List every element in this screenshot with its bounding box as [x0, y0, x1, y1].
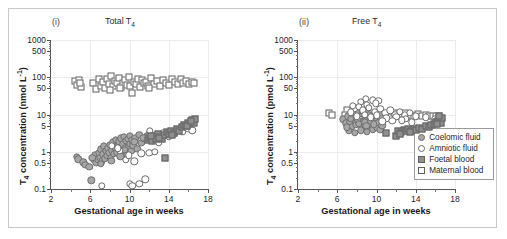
y-axis-minor-tick [49, 120, 52, 121]
y-axis-minor-tick [49, 171, 52, 172]
legend-item-amniotic-fluid[interactable]: Amniotic fluid [418, 143, 489, 154]
legend-item-foetal-blood[interactable]: Foetal blood [418, 154, 489, 165]
y-axis-minor-tick [49, 48, 52, 49]
x-axis-minor-tick [396, 189, 397, 192]
foetal-blood-point [168, 132, 175, 139]
y-axis-tick-label: 0.5 [34, 159, 46, 167]
y-axis-minor-tick [49, 92, 52, 93]
legend-item-coelomic-fluid[interactable]: Coelomic fluid [418, 132, 489, 143]
y-axis-minor-tick [296, 103, 299, 104]
y-axis-minor-tick [296, 81, 299, 82]
x-axis-tick [208, 189, 209, 193]
y-axis-minor-tick [296, 155, 299, 156]
amniotic-fluid-point [422, 114, 429, 121]
figure-root: (i) Total T4 T4 concentration (nmol L-1)… [0, 0, 507, 239]
y-axis-minor-tick [296, 44, 299, 45]
y-axis-tick-label: 1000 [274, 36, 293, 44]
x-axis-minor-tick [71, 189, 72, 192]
x-axis-tick [298, 189, 299, 193]
y-axis-title-i-t: T [18, 179, 28, 185]
x-axis-minor-tick [357, 189, 358, 192]
y-axis-minor-tick [296, 178, 299, 179]
foetal-blood-point [397, 130, 404, 137]
panel-title-ii-sub: 4 [378, 21, 382, 28]
y-axis-minor-tick [296, 42, 299, 43]
foetal-blood-point [148, 133, 155, 140]
maternal-blood-point [116, 85, 123, 92]
x-axis-minor-tick [435, 189, 436, 192]
y-axis-minor-tick [49, 141, 52, 142]
y-axis-minor-tick [49, 129, 52, 130]
legend-item-maternal-blood[interactable]: Maternal blood [418, 165, 489, 176]
maternal-blood-point [106, 86, 113, 93]
panel-index-ii: (ii) [299, 17, 309, 27]
y-axis-minor-tick [49, 79, 52, 80]
y-axis-minor-tick [49, 178, 52, 179]
x-axis-title-ii: Gestational age in weeks [321, 206, 430, 216]
y-axis-title-i-sup: -1 [16, 70, 23, 76]
x-axis-tick [90, 189, 91, 193]
y-axis-minor-tick [49, 66, 52, 67]
legend-label-coelomic: Coelomic fluid [429, 133, 480, 142]
x-axis-tick-label: 18 [450, 194, 460, 204]
y-axis-tick [47, 126, 51, 127]
y-axis-minor-tick [49, 155, 52, 156]
y-axis-minor-tick [49, 116, 52, 117]
y-axis-minor-tick [49, 42, 52, 43]
foetal-blood-point [155, 134, 162, 141]
x-axis-tick [377, 189, 378, 193]
x-gridline [208, 40, 209, 189]
x-axis-tick [337, 189, 338, 193]
y-axis-minor-tick [49, 118, 52, 119]
y-axis-tick-label: 500 [279, 47, 293, 55]
y-axis-minor-tick [296, 116, 299, 117]
y-axis-tick-label: 10 [37, 110, 46, 118]
y-gridline [298, 77, 455, 78]
y-axis-tick-label: 50 [37, 84, 46, 92]
y-axis-minor-tick [49, 86, 52, 87]
y-axis-minor-tick [49, 97, 52, 98]
foetal-blood-marker-icon [418, 156, 425, 163]
y-axis-minor-tick [49, 134, 52, 135]
y-axis-minor-tick [49, 123, 52, 124]
y-axis-minor-tick [296, 171, 299, 172]
x-axis-tick [169, 189, 170, 193]
y-axis-title-ii-rest: concentration (pmol L [265, 76, 275, 175]
y-axis-minor-tick [296, 158, 299, 159]
maternal-blood-point [191, 80, 198, 87]
y-axis-minor-tick [296, 66, 299, 67]
x-axis-tick [51, 189, 52, 193]
foetal-blood-point [406, 129, 413, 136]
amniotic-fluid-point [98, 182, 105, 189]
y-axis-tick [47, 88, 51, 89]
amniotic-fluid-marker-icon [418, 145, 425, 152]
y-axis-tick-label: 50 [284, 84, 293, 92]
x-axis-tick-label: 6 [335, 194, 340, 204]
amniotic-fluid-point [398, 117, 405, 124]
y-axis-tick [294, 126, 298, 127]
panel-title-i-sub: 4 [131, 21, 135, 28]
legend: Coelomic fluid Amniotic fluid Foetal blo… [414, 128, 494, 180]
y-axis-tick-label: 100 [32, 73, 46, 81]
y-axis-minor-tick [296, 46, 299, 47]
x-axis-tick-label: 6 [88, 194, 93, 204]
legend-label-maternal: Maternal blood [429, 166, 483, 175]
x-axis-tick-label: 14 [411, 194, 421, 204]
x-axis-tick-label: 14 [164, 194, 174, 204]
y-axis-minor-tick [49, 44, 52, 45]
x-axis-tick-label: 2 [296, 194, 301, 204]
panel-title-i-text: Total T [105, 16, 131, 26]
y-gridline [298, 40, 455, 41]
foetal-blood-point [383, 129, 390, 136]
y-axis-minor-tick [49, 81, 52, 82]
y-axis-minor-tick [49, 59, 52, 60]
y-axis-minor-tick [296, 167, 299, 168]
amniotic-fluid-point [138, 150, 145, 157]
y-axis-minor-tick [49, 83, 52, 84]
y-axis-tick [294, 163, 298, 164]
y-axis-tick-label: 1 [41, 148, 46, 156]
maternal-blood-point [77, 79, 84, 86]
y-axis-title-ii-t: T [265, 179, 275, 185]
y-axis-minor-tick [296, 120, 299, 121]
y-axis-minor-tick [49, 160, 52, 161]
